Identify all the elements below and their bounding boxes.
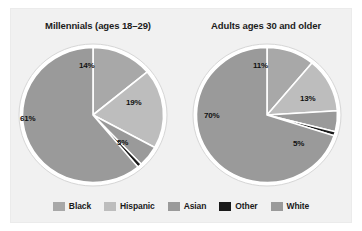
legend-item-asian[interactable]: Asian xyxy=(168,201,207,211)
legend-swatch-white xyxy=(271,202,283,211)
pie-chart-millennials: 14% 19% 5% 61% xyxy=(16,41,170,189)
legend-label-white: White xyxy=(287,201,310,211)
slice-label-black-left: 14% xyxy=(79,61,94,70)
slice-label-hispanic-right: 13% xyxy=(300,94,315,103)
legend-item-hispanic[interactable]: Hispanic xyxy=(104,201,155,211)
chart-title-millennials: Millennials (ages 18–29) xyxy=(18,20,178,31)
legend-swatch-other xyxy=(219,202,231,211)
legend-label-other: Other xyxy=(235,201,257,211)
legend-item-white[interactable]: White xyxy=(271,201,310,211)
legend-label-black: Black xyxy=(69,201,91,211)
legend-label-asian: Asian xyxy=(184,201,207,211)
chart-title-adults-30-plus: Adults ages 30 and older xyxy=(186,20,346,31)
slice-label-asian-right: 5% xyxy=(293,139,304,148)
legend-swatch-asian xyxy=(168,202,180,211)
legend-item-black[interactable]: Black xyxy=(53,201,91,211)
chart-legend: BlackHispanicAsianOtherWhite xyxy=(11,196,351,216)
pie-chart-adults-30-plus: 11% 13% 5% 70% xyxy=(190,41,344,189)
slice-label-asian-left: 5% xyxy=(117,138,128,147)
slice-label-hispanic-left: 19% xyxy=(126,98,141,107)
legend-swatch-black xyxy=(53,202,65,211)
pie-chart-figure: Millennials (ages 18–29) 14% 19% 5% 61% … xyxy=(0,0,362,231)
slice-label-black-right: 11% xyxy=(253,61,268,70)
legend-swatch-hispanic xyxy=(104,202,116,211)
legend-item-other[interactable]: Other xyxy=(219,201,257,211)
slice-label-white-left: 61% xyxy=(20,114,35,123)
legend-label-hispanic: Hispanic xyxy=(120,201,155,211)
slice-label-white-right: 70% xyxy=(204,111,219,120)
